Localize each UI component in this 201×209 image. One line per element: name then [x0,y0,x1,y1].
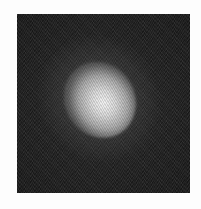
image-canvas [0,0,201,209]
dark-image-frame [17,14,190,193]
